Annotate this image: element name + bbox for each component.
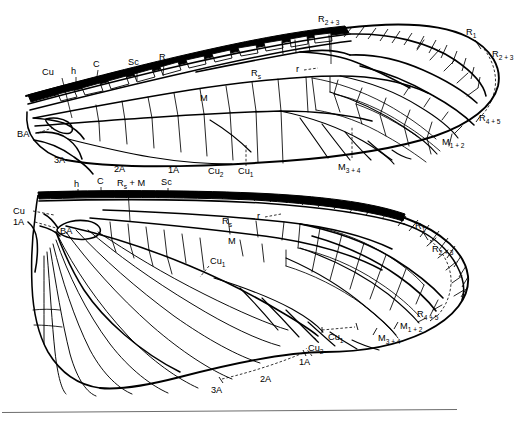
hindwing-label-1a: 1A <box>299 357 311 367</box>
forewing-label-1a: 1A <box>168 165 180 175</box>
hindwing-label-r-crossvein: r <box>257 211 260 221</box>
forewing-label-c: C <box>93 59 100 69</box>
wing-venation-svg: Cu h C Sc R BA 3A 2A 1A Cu2 Cu1 M Rs <box>0 0 523 426</box>
forewing-label-r: R <box>159 52 166 62</box>
hindwing-label-3a: 3A <box>211 385 223 395</box>
forewing-label-m: M <box>200 93 208 103</box>
hindwing-label-2a: 2A <box>260 374 272 384</box>
hindwing-label-m: M <box>228 236 236 246</box>
forewing-label-r-crossvein: r <box>296 64 299 74</box>
hindwing-label-h: h <box>74 179 79 189</box>
wing-venation-figure: Cu h C Sc R BA 3A 2A 1A Cu2 Cu1 M Rs <box>0 0 523 426</box>
hindwing-label-cu: Cu <box>13 206 25 216</box>
forewing-label-2a: 2A <box>114 164 126 174</box>
hindwing-label-rs-plus-m: Rs + M <box>117 178 145 190</box>
figure-background <box>0 0 523 426</box>
forewing-label-sc: Sc <box>128 57 139 67</box>
forewing-label-ba: BA <box>17 129 30 139</box>
forewing-label-h: h <box>71 66 76 76</box>
hindwing-label-c: C <box>97 176 104 186</box>
hindwing-label-sc: Sc <box>161 177 172 187</box>
hindwing-label-ba: BA <box>60 226 73 236</box>
hindwing-label-1a-base: 1A <box>13 217 25 227</box>
forewing-label-3a: 3A <box>54 155 66 165</box>
forewing-label-cu: Cu <box>42 67 54 77</box>
